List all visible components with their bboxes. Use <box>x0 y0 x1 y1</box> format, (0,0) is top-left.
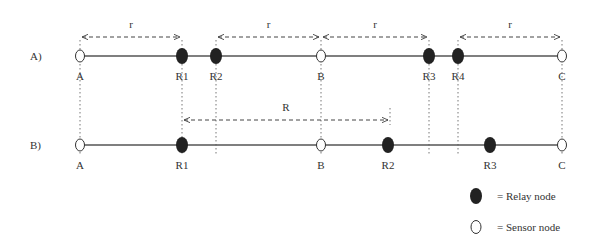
legend-icons <box>470 188 482 234</box>
relay-node-icon <box>484 137 496 153</box>
sensor-node-icon <box>76 139 85 151</box>
diagram-canvas <box>0 0 589 251</box>
node-label: R1 <box>176 159 189 171</box>
sensor-node-icon <box>76 50 85 62</box>
range-label: r <box>267 18 271 30</box>
sensor-node-icon <box>317 139 326 151</box>
node-label: A <box>76 70 84 82</box>
sensor-node-icon <box>317 50 326 62</box>
relay-node-icon <box>176 137 188 153</box>
node-label: R4 <box>452 70 465 82</box>
node-label: R3 <box>484 159 497 171</box>
node-label: R2 <box>210 70 223 82</box>
legend-sensor-text: = Sensor node <box>497 221 560 233</box>
relay-node-icon <box>176 48 188 64</box>
node-label: A <box>76 159 84 171</box>
relay-node-icon <box>210 48 222 64</box>
range-label: R <box>282 101 289 113</box>
range-label: r <box>129 18 133 30</box>
node-label: R3 <box>423 70 436 82</box>
row-b-label: B) <box>30 139 41 151</box>
node-label: R1 <box>176 70 189 82</box>
relay-node-icon <box>423 48 435 64</box>
row-a-label: A) <box>30 50 42 62</box>
node-label: C <box>558 159 565 171</box>
node-label: R2 <box>382 159 395 171</box>
node-label: C <box>558 70 565 82</box>
relay-node-icon <box>382 137 394 153</box>
relay-node-legend-icon <box>470 188 482 204</box>
range-label: r <box>508 18 512 30</box>
legend-relay-text: = Relay node <box>497 190 556 202</box>
sensor-node-icon <box>558 50 567 62</box>
sensor-node-icon <box>558 139 567 151</box>
relay-node-icon <box>452 48 464 64</box>
relay-placement-diagram: A) B) rrrrAR1R2BR3R4CRAR1BR2R3C = Relay … <box>0 0 589 251</box>
node-label: B <box>317 159 324 171</box>
range-label: r <box>373 18 377 30</box>
node-label: B <box>317 70 324 82</box>
sensor-node-legend-icon <box>471 221 481 234</box>
